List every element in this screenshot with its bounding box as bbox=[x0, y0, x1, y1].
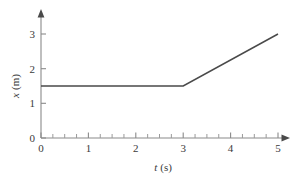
data-line-position bbox=[41, 34, 278, 86]
chart-figure: 0 1 2 3 bbox=[0, 0, 295, 177]
y-axis-arrow-icon bbox=[38, 9, 45, 18]
x-tick-label-0: 0 bbox=[38, 142, 44, 154]
y-axis-title-symbol: x bbox=[9, 93, 21, 99]
y-axis-title: x(m) bbox=[9, 74, 22, 99]
y-tick-label-2: 2 bbox=[30, 63, 36, 75]
position-time-chart: 0 1 2 3 bbox=[0, 0, 295, 177]
y-axis-title-unit: (m) bbox=[9, 74, 22, 90]
x-tick-label-1: 1 bbox=[86, 142, 92, 154]
x-axis-title-symbol: t bbox=[154, 161, 158, 173]
y-tick-label-3: 3 bbox=[30, 28, 36, 40]
x-tick-label-4: 4 bbox=[228, 142, 234, 154]
x-axis-tick-labels: 0 1 2 3 4 5 bbox=[38, 142, 281, 154]
x-tick-label-3: 3 bbox=[180, 142, 186, 154]
x-axis-arrow-icon bbox=[282, 135, 291, 142]
y-axis-tick-labels: 0 1 2 3 bbox=[30, 28, 36, 144]
x-axis-minor-ticks bbox=[53, 134, 266, 138]
x-axis-title-unit: (s) bbox=[160, 161, 172, 174]
x-axis-title: t(s) bbox=[154, 161, 172, 174]
y-tick-label-0: 0 bbox=[30, 132, 36, 144]
x-tick-label-5: 5 bbox=[275, 142, 281, 154]
y-tick-label-1: 1 bbox=[30, 97, 36, 109]
x-tick-label-2: 2 bbox=[133, 142, 139, 154]
